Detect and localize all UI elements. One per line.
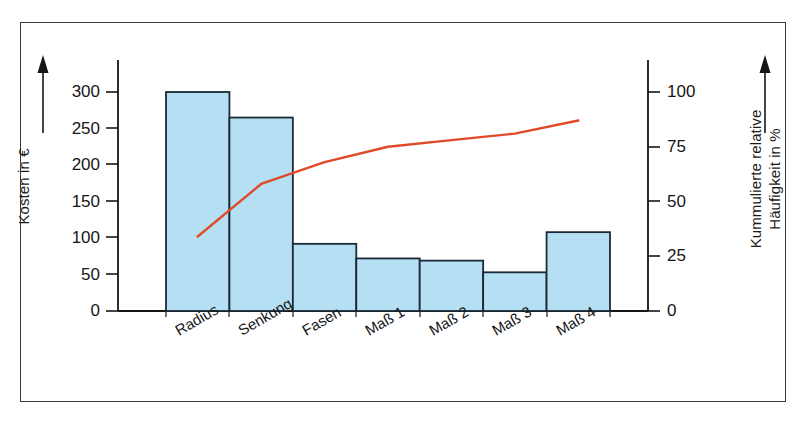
left-tick-label: 200 [58, 156, 100, 173]
left-tick-label: 300 [58, 83, 100, 100]
left-axis-arrow-icon [36, 55, 50, 133]
right-axis-title-line1: Kummulierte relative [746, 69, 765, 289]
left-axis-title: Kosten in € [15, 102, 32, 272]
left-tick-label: 100 [58, 229, 100, 246]
right-axis-title-line2: Häufigkeit in % [765, 69, 784, 289]
right-tick-label: 0 [667, 302, 713, 319]
right-axis-title: Kummulierte relative Häufigkeit in % [746, 69, 784, 289]
left-tick-label: 50 [58, 266, 100, 283]
right-tick-label: 50 [667, 193, 713, 210]
chart-frame [20, 22, 786, 402]
left-tick-label: 250 [58, 120, 100, 137]
left-tick-label: 150 [58, 193, 100, 210]
right-tick-label: 75 [667, 138, 713, 155]
left-tick-label: 0 [58, 302, 100, 319]
pareto-chart-figure: Kosten in € Kummulierte relative Häufigk… [0, 0, 802, 424]
right-tick-label: 25 [667, 247, 713, 264]
right-tick-label: 100 [667, 83, 713, 100]
